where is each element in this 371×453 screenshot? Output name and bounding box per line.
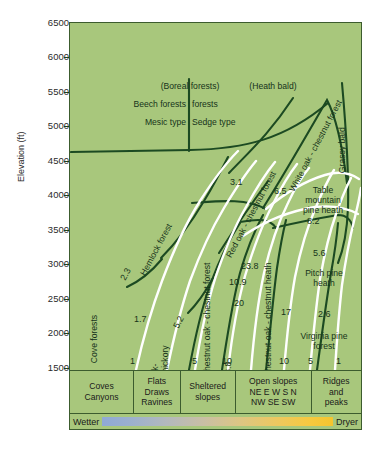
open-slopes-line1: Open slopes bbox=[249, 376, 297, 386]
contour-value-20: 20 bbox=[234, 299, 244, 308]
contour-value-5-6: 5.6 bbox=[313, 249, 326, 258]
label-forests-right: forests bbox=[192, 99, 256, 109]
y-tick-1500: 1500 bbox=[29, 363, 69, 373]
y-tick-6500: 6500 bbox=[29, 18, 69, 28]
y-tick-2000: 2000 bbox=[29, 328, 69, 338]
label-cove-forests: Cove forests bbox=[89, 315, 99, 363]
contour-value-6-5: 6.5 bbox=[274, 187, 287, 196]
contour-value-3-1: 3.1 bbox=[230, 178, 243, 187]
gradient-label-wetter: Wetter bbox=[70, 417, 102, 427]
x-contour-10-left: 10 bbox=[222, 356, 232, 366]
category-coves-canyons: Coves Canyons bbox=[70, 371, 134, 413]
y-tick-5500: 5500 bbox=[29, 87, 69, 97]
sheltered-line1: Sheltered bbox=[189, 381, 226, 391]
contour-value-17: 17 bbox=[281, 308, 291, 317]
heath-bald-diagonal bbox=[229, 98, 293, 173]
table-mountain-line2: mountain bbox=[305, 195, 340, 205]
label-mesic-type: Mesic type bbox=[114, 117, 186, 127]
label-chestnut-oak-chestnut-heath: Chestnut oak - chestnut heath bbox=[263, 262, 273, 371]
category-open-slopes: Open slopes NE E W S N NW SE SW bbox=[236, 371, 312, 413]
contour-value-8-2: 8.2 bbox=[307, 217, 320, 226]
plot-area: (Boreal forests) Beech forests forests M… bbox=[69, 22, 362, 371]
category-ridges-and-peaks: Ridges and peaks bbox=[312, 371, 361, 413]
coves-line1: Coves bbox=[89, 381, 113, 391]
label-heath-bald: (Heath bald) bbox=[229, 81, 317, 91]
coves-line2: Canyons bbox=[85, 392, 119, 402]
y-axis-title: Elevation (ft) bbox=[16, 131, 26, 182]
contour-value-10-9: 10.9 bbox=[229, 278, 247, 287]
flats-line3: Ravines bbox=[141, 397, 172, 407]
label-grassy-bald: Grassy bald bbox=[337, 127, 347, 173]
y-tick-5000: 5000 bbox=[29, 121, 69, 131]
y-tick-2500: 2500 bbox=[29, 294, 69, 304]
ridges-line1: Ridges bbox=[323, 376, 350, 386]
gradient-label-dryer: Dryer bbox=[333, 417, 361, 427]
red-oak-pignut-line1: Red oak- bbox=[150, 364, 160, 371]
pitch-pine-line2: heath bbox=[313, 278, 335, 288]
y-tick-3500: 3500 bbox=[29, 225, 69, 235]
moisture-gradient-row: Wetter Dryer bbox=[70, 413, 361, 429]
label-pitch-pine-heath: Pitch pine heath bbox=[292, 268, 356, 288]
red-oak-pignut-line2: pignut hickory bbox=[160, 345, 170, 371]
label-beech-forests: Beech forests bbox=[122, 99, 186, 109]
pitch-pine-line1: Pitch pine bbox=[305, 268, 343, 278]
label-table-mountain-pine-heath: Table mountain pine heath bbox=[289, 185, 357, 215]
y-tick-3000: 3000 bbox=[29, 259, 69, 269]
ridges-line3: peaks bbox=[325, 397, 348, 407]
virginia-pine-line2: forest bbox=[313, 341, 335, 351]
x-contour-5-left: 5 bbox=[192, 356, 197, 366]
flats-line2: Draws bbox=[145, 387, 169, 397]
upper-left-horizontal-line bbox=[71, 150, 190, 152]
contour-value-2-6: 2.6 bbox=[318, 310, 331, 319]
category-flats-draws-ravines: Flats Draws Ravines bbox=[134, 371, 181, 413]
flats-line1: Flats bbox=[147, 376, 166, 386]
x-contour-1-left: 1 bbox=[130, 356, 135, 366]
topography-category-table: Coves Canyons Flats Draws Ravines Shelte… bbox=[69, 371, 362, 430]
hemlock-forest-line bbox=[161, 157, 228, 258]
label-chestnut-oak-chestnut-forest: Chestnut oak - chestnut forest bbox=[202, 262, 212, 371]
ridges-line2: and bbox=[329, 387, 343, 397]
category-row: Coves Canyons Flats Draws Ravines Shelte… bbox=[70, 371, 361, 413]
open-slopes-line2: NE E W S N bbox=[250, 387, 297, 397]
x-contour-1-right: 1 bbox=[336, 356, 341, 366]
category-sheltered-slopes: Sheltered slopes bbox=[181, 371, 236, 413]
contour-value-1-7: 1.7 bbox=[134, 315, 147, 324]
moisture-gradient-bar bbox=[102, 417, 333, 426]
x-contour-5-right: 5 bbox=[308, 356, 313, 366]
label-sedge-type: Sedge type bbox=[192, 117, 264, 127]
contour-value-23-8: 23.8 bbox=[241, 262, 259, 271]
vegetation-gradient-diagram: Elevation (ft) 6500 6000 5500 5000 4500 … bbox=[0, 0, 371, 453]
y-tick-6000: 6000 bbox=[29, 52, 69, 62]
open-slopes-line3: NW SE SW bbox=[251, 397, 295, 407]
y-tick-4500: 4500 bbox=[29, 156, 69, 166]
x-contour-10-right: 10 bbox=[279, 356, 289, 366]
table-mountain-line3: pine heath bbox=[303, 205, 343, 215]
virginia-pine-line1: Virginia pine bbox=[300, 331, 347, 341]
y-tick-4000: 4000 bbox=[29, 190, 69, 200]
label-virginia-pine-forest: Virginia pine forest bbox=[288, 331, 360, 351]
sheltered-line2: slopes bbox=[195, 392, 220, 402]
y-axis: Elevation (ft) 6500 6000 5500 5000 4500 … bbox=[12, 0, 69, 453]
table-mountain-line1: Table bbox=[313, 185, 334, 195]
